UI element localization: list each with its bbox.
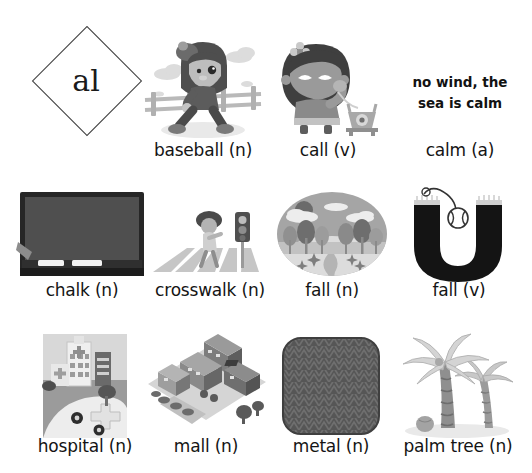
ball-falling-in-u-icon bbox=[400, 190, 518, 282]
vocab-item-chalk: chalk (n) bbox=[12, 176, 152, 300]
vocabulary-worksheet: al bbox=[0, 0, 532, 473]
phoneme-tile: al bbox=[32, 26, 140, 134]
phoneme-label: al bbox=[32, 26, 140, 134]
calm-sentence-icon: no wind, the sea is calm bbox=[392, 72, 528, 114]
vocab-item-metal: metal (n) bbox=[272, 316, 390, 456]
vocab-label-metal: metal (n) bbox=[293, 438, 369, 456]
metal-texture-icon bbox=[279, 334, 383, 438]
girl-on-telephone-icon bbox=[272, 30, 384, 142]
vocab-label-call: call (v) bbox=[300, 142, 356, 160]
vocab-label-fall-v: fall (v) bbox=[433, 282, 486, 300]
vocab-label-mall: mall (n) bbox=[174, 438, 238, 456]
vocab-label-baseball: baseball (n) bbox=[154, 142, 252, 160]
calm-sentence-line1: no wind, the bbox=[392, 72, 528, 93]
vocab-item-call: call (v) bbox=[268, 20, 388, 160]
vocab-item-baseball: baseball (n) bbox=[140, 20, 266, 160]
vocab-item-fall-v: fall (v) bbox=[396, 176, 522, 300]
vocab-item-palm-tree: palm tree (n) bbox=[390, 316, 526, 456]
calm-sentence-line2: sea is calm bbox=[392, 93, 528, 114]
hospital-icon bbox=[29, 334, 141, 438]
vocab-item-hospital: hospital (n) bbox=[20, 316, 150, 456]
shopping-mall-icon bbox=[144, 334, 268, 438]
vocab-label-hospital: hospital (n) bbox=[38, 438, 132, 456]
vocab-label-palm-tree: palm tree (n) bbox=[404, 438, 513, 456]
vocab-item-fall-n: fall (n) bbox=[272, 176, 392, 300]
crosswalk-icon bbox=[151, 190, 269, 282]
vocab-label-chalk: chalk (n) bbox=[46, 282, 119, 300]
vocab-item-calm: no wind, the sea is calm calm (a) bbox=[392, 20, 528, 160]
chalkboard-icon bbox=[16, 190, 148, 282]
vocab-item-crosswalk: crosswalk (n) bbox=[148, 176, 272, 300]
baseball-batter-icon bbox=[143, 30, 263, 142]
vocab-label-fall-n: fall (n) bbox=[305, 282, 359, 300]
palm-tree-icon bbox=[395, 334, 521, 438]
vocab-label-calm: calm (a) bbox=[426, 142, 495, 160]
vocab-label-crosswalk: crosswalk (n) bbox=[155, 282, 265, 300]
vocab-item-mall: mall (n) bbox=[142, 316, 270, 456]
autumn-landscape-icon bbox=[274, 190, 390, 282]
